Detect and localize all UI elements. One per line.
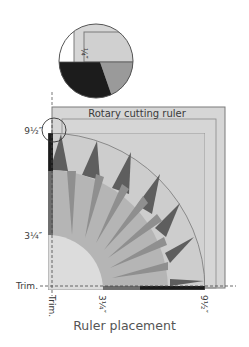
figure-caption: Ruler placement <box>0 318 249 333</box>
detail-inset: ¼″ <box>55 20 154 107</box>
ruler-label: Rotary cutting ruler <box>88 108 187 119</box>
left-label-3-quarter: 3¼″ <box>24 231 42 241</box>
ruler-placement-diagram: ¼″ Rotary cutting ruler 9½″ 3¼″ Trim. Tr… <box>0 0 249 347</box>
bottom-label-3-quarter: 3¼″ <box>97 295 107 313</box>
bottom-label-trim: Trim. <box>47 294 57 317</box>
inset-quarter-inch-label: ¼″ <box>79 48 88 59</box>
left-label-trim: Trim. <box>15 281 38 291</box>
bottom-label-9-half: 9½″ <box>199 295 209 313</box>
quilt-block-fan <box>48 133 205 290</box>
left-label-9-half: 9½″ <box>24 126 42 136</box>
